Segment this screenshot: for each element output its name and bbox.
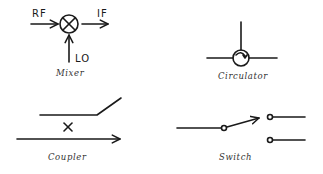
coupler-symbol: Coupler <box>17 98 121 162</box>
mixer-if-label: IF <box>97 8 108 19</box>
switch-contact-1-icon <box>268 115 273 120</box>
mixer-symbol: RF IF LO Mixer <box>31 8 108 78</box>
mixer-rf-label: RF <box>32 8 47 19</box>
circulator-symbol: Circulator <box>207 22 277 81</box>
switch-symbol: Switch <box>177 115 305 163</box>
mixer-lo-label: LO <box>75 53 90 64</box>
switch-contact-2-icon <box>268 138 273 143</box>
coupler-coupled-line <box>40 98 121 115</box>
circulator-caption: Circulator <box>218 71 268 81</box>
mixer-caption: Mixer <box>55 68 85 78</box>
switch-blade-arrow-icon <box>227 118 259 127</box>
coupler-caption: Coupler <box>48 152 87 162</box>
rf-symbols-diagram: RF IF LO Mixer Circulator Coupler <box>0 0 323 174</box>
switch-pivot-contact-icon <box>222 126 227 131</box>
switch-caption: Switch <box>219 152 252 162</box>
